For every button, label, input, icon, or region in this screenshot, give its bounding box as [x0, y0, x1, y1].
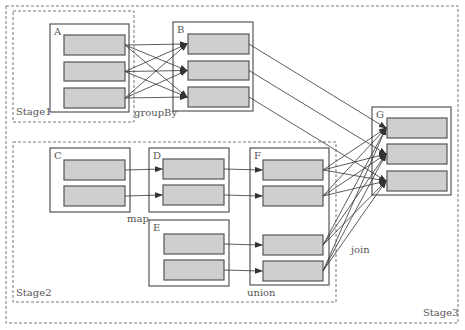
edge-B1-G1 — [249, 44, 386, 128]
partition-G1 — [387, 118, 447, 138]
rdd-F: F — [250, 148, 329, 285]
rdd-G-label: G — [376, 109, 384, 120]
rdd-D-label: D — [153, 150, 161, 161]
partition-C2 — [64, 186, 125, 206]
rdd-C-label: C — [54, 150, 62, 161]
partition-A2 — [64, 62, 125, 81]
stage2-label: Stage2 — [16, 287, 52, 298]
partition-E2 — [164, 260, 224, 280]
rdd-B-label: B — [177, 24, 184, 35]
partition-D2 — [163, 185, 224, 205]
rdd-A: A — [50, 24, 129, 112]
partition-F3 — [263, 235, 323, 255]
diagram-svg: ABCDEFG Stage1Stage2Stage3groupBymapunio… — [0, 0, 465, 330]
operation-map-label: map — [127, 213, 149, 224]
edge-F4-G3 — [323, 181, 386, 271]
partition-C1 — [64, 160, 125, 180]
rdd-B: B — [173, 22, 253, 111]
stage1-label: Stage1 — [16, 106, 52, 117]
partition-F4 — [263, 261, 323, 281]
partition-F1 — [263, 160, 323, 180]
partition-E1 — [164, 234, 224, 254]
partition-B3 — [188, 87, 249, 107]
stage3-label: Stage3 — [423, 307, 459, 318]
partition-G3 — [387, 171, 447, 191]
partition-A1 — [64, 35, 125, 55]
rdd-E: E — [149, 220, 229, 286]
rdd-E-label: E — [153, 222, 160, 233]
rdd-F-label: F — [254, 150, 261, 161]
partition-D1 — [163, 159, 224, 179]
partition-F2 — [263, 186, 323, 206]
partition-B2 — [188, 61, 249, 80]
operation-join-label: join — [350, 244, 370, 255]
partition-A3 — [64, 88, 125, 108]
operation-groupby-label: groupBy — [134, 107, 177, 118]
partition-G2 — [387, 144, 447, 164]
rdd-D: D — [149, 148, 229, 212]
rdd-C: C — [50, 148, 130, 212]
partition-B1 — [188, 34, 249, 54]
rdd-A-label: A — [53, 26, 62, 37]
rdd-stage-diagram: ABCDEFG Stage1Stage2Stage3groupBymapunio… — [0, 0, 465, 330]
operation-union-label: union — [247, 287, 276, 298]
